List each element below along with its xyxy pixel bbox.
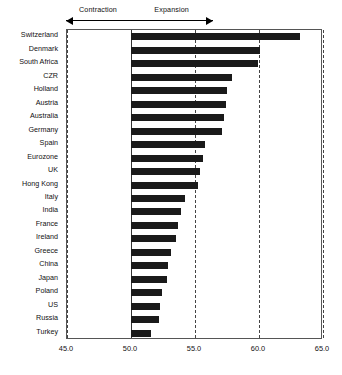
category-label-switzerland: Switzerland [21, 31, 58, 39]
gridline-45-0 [67, 30, 68, 338]
gridline-60-0 [259, 30, 260, 338]
bar-china [131, 262, 168, 269]
x-tick-label-45-0: 45.0 [59, 344, 73, 353]
gridline-65-0 [323, 30, 324, 338]
category-label-denmark: Denmark [29, 45, 58, 53]
category-label-spain: Spain [40, 139, 58, 147]
contraction-annotation-label: Contraction [79, 5, 117, 14]
category-label-france: France [36, 220, 58, 228]
category-label-poland: Poland [36, 287, 58, 295]
category-label-uk: UK [48, 166, 58, 174]
category-label-us: US [48, 301, 58, 309]
category-label-czr: CZR [43, 72, 58, 80]
bar-us [131, 303, 160, 310]
category-label-australia: Australia [30, 112, 58, 120]
bar-japan [131, 276, 167, 283]
arrow-shaft [130, 20, 213, 21]
category-label-india: India [42, 206, 58, 214]
x-tick-label-55-0: 55.0 [187, 344, 201, 353]
bar-south-africa [131, 60, 258, 67]
bar-poland [131, 289, 162, 296]
bar-ireland [131, 235, 176, 242]
bar-italy [131, 195, 185, 202]
expansion-arrow-icon [130, 16, 213, 25]
bar-czr [131, 74, 232, 81]
category-label-eurozone: Eurozone [27, 153, 58, 161]
category-label-japan: Japan [38, 274, 58, 282]
arrow-head [66, 17, 73, 25]
contraction-arrow-icon [66, 16, 130, 25]
bar-australia [131, 114, 224, 121]
category-label-hong-kong: Hong Kong [22, 180, 58, 188]
expansion-annotation-label: Expansion [154, 5, 188, 14]
category-label-holland: Holland [34, 85, 58, 93]
category-label-greece: Greece [34, 247, 58, 255]
category-label-ireland: Ireland [36, 233, 58, 241]
bar-turkey [131, 330, 151, 337]
pmi-diffusion-bar-chart: Contraction Expansion SwitzerlandDenmark… [0, 0, 342, 375]
bar-eurozone [131, 155, 203, 162]
bar-germany [131, 128, 222, 135]
bar-uk [131, 168, 200, 175]
category-label-south-africa: South Africa [19, 58, 58, 66]
bar-russia [131, 316, 159, 323]
category-label-germany: Germany [28, 126, 58, 134]
bar-hong-kong [131, 182, 198, 189]
bar-austria [131, 101, 226, 108]
category-label-russia: Russia [36, 314, 58, 322]
bar-holland [131, 87, 227, 94]
bar-denmark [131, 47, 260, 54]
bar-spain [131, 141, 205, 148]
category-axis: SwitzerlandDenmarkSouth AfricaCZRHolland… [0, 0, 63, 375]
category-label-turkey: Turkey [36, 328, 58, 336]
x-tick-label-65-0: 65.0 [315, 344, 329, 353]
category-label-china: China [39, 260, 58, 268]
category-label-austria: Austria [36, 99, 58, 107]
bar-france [131, 222, 178, 229]
bar-india [131, 208, 181, 215]
arrow-head [206, 17, 213, 25]
category-label-italy: Italy [45, 193, 58, 201]
x-tick-label-50-0: 50.0 [123, 344, 137, 353]
arrow-shaft [66, 20, 130, 21]
x-tick-label-60-0: 60.0 [251, 344, 265, 353]
plot-area [66, 29, 322, 339]
bar-switzerland [131, 33, 300, 40]
bar-greece [131, 249, 171, 256]
